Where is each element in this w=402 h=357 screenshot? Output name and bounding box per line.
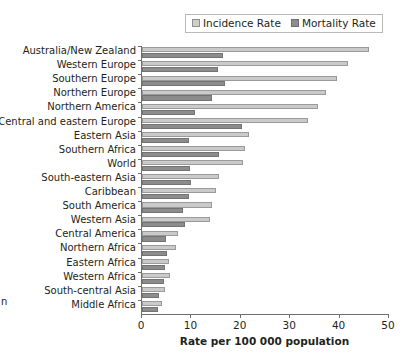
- bar-incidence: [142, 76, 337, 81]
- bar-incidence: [142, 259, 169, 264]
- y-axis-tick: [138, 201, 141, 202]
- category-label: World: [107, 157, 136, 171]
- bar-mortality: [142, 67, 218, 72]
- bar-incidence: [142, 287, 165, 292]
- bar-row: Northern America: [141, 102, 388, 116]
- bar-row: South-central Asia: [141, 286, 388, 300]
- bar-row: Central and eastern Europe: [141, 117, 388, 131]
- legend-label-mortality: Mortality Rate: [302, 17, 376, 29]
- category-label: Western Asia: [71, 213, 136, 227]
- bar-incidence: [142, 273, 170, 278]
- bar-incidence: [142, 132, 249, 137]
- bar-chart-figure: Incidence Rate Mortality Rate Australia/…: [0, 0, 402, 357]
- x-axis-tick: [289, 314, 290, 318]
- bar-mortality: [142, 152, 219, 157]
- legend-swatch-mortality-icon: [291, 19, 299, 27]
- category-label: South-central Asia: [44, 284, 136, 298]
- y-axis-tick: [138, 145, 141, 146]
- bar-incidence: [142, 146, 245, 151]
- bar-row: South-eastern Asia: [141, 173, 388, 187]
- bar-row: South America: [141, 201, 388, 215]
- category-label: Central and eastern Europe: [0, 115, 136, 129]
- bar-mortality: [142, 110, 195, 115]
- legend-label-incidence: Incidence Rate: [203, 17, 281, 29]
- bar-mortality: [142, 95, 212, 100]
- category-label: Central America: [55, 227, 136, 241]
- y-axis-tick: [138, 173, 141, 174]
- y-axis-tick: [138, 60, 141, 61]
- x-axis-tick-label: 30: [283, 319, 296, 331]
- bar-row: Western Europe: [141, 60, 388, 74]
- bar-incidence: [142, 217, 210, 222]
- bar-row: Southern Europe: [141, 74, 388, 88]
- bar-mortality: [142, 307, 158, 312]
- x-axis-tick: [190, 314, 191, 318]
- bar-incidence: [142, 104, 318, 109]
- category-label: Southern Europe: [52, 72, 136, 86]
- x-axis-tick-label: 10: [184, 319, 197, 331]
- y-axis-tick: [138, 187, 141, 188]
- bar-mortality: [142, 236, 166, 241]
- category-label: Northern Europe: [53, 86, 136, 100]
- category-label: Northern Africa: [60, 241, 136, 255]
- bar-row: Southern Africa: [141, 145, 388, 159]
- x-axis-title: Rate per 100 000 population: [141, 335, 388, 347]
- bar-incidence: [142, 245, 176, 250]
- bar-incidence: [142, 160, 243, 165]
- bar-mortality: [142, 265, 165, 270]
- bar-row: World: [141, 159, 388, 173]
- bar-incidence: [142, 231, 178, 236]
- x-axis-tick-label: 0: [138, 319, 145, 331]
- bar-row: Western Africa: [141, 272, 388, 286]
- category-label: Western Africa: [63, 270, 136, 284]
- bar-mortality: [142, 53, 223, 58]
- bar-row: Western Asia: [141, 215, 388, 229]
- bar-mortality: [142, 180, 191, 185]
- bar-row: Eastern Asia: [141, 131, 388, 145]
- x-axis-tick: [141, 314, 142, 318]
- category-label: Eastern Africa: [66, 256, 136, 270]
- bar-mortality: [142, 124, 242, 129]
- y-axis-tick: [138, 74, 141, 75]
- x-axis-tick-label: 50: [381, 319, 394, 331]
- y-axis-tick: [138, 215, 141, 216]
- category-label: Southern Africa: [59, 143, 136, 157]
- y-axis-tick: [138, 272, 141, 273]
- bar-incidence: [142, 188, 216, 193]
- chart-legend: Incidence Rate Mortality Rate: [185, 14, 383, 33]
- bar-incidence: [142, 61, 348, 66]
- x-axis-tick-label: 20: [233, 319, 246, 331]
- bar-mortality: [142, 251, 167, 256]
- legend-item-mortality: Mortality Rate: [291, 17, 376, 29]
- category-label: South-eastern Asia: [41, 171, 136, 185]
- y-axis-tick: [138, 46, 141, 47]
- x-axis-tick: [240, 314, 241, 318]
- bar-incidence: [142, 90, 326, 95]
- legend-item-incidence: Incidence Rate: [192, 17, 281, 29]
- bar-mortality: [142, 81, 225, 86]
- y-axis-tick: [138, 300, 141, 301]
- cropped-text-fragment: n: [1, 296, 7, 307]
- category-label: Australia/New Zealand: [23, 44, 136, 58]
- y-axis-tick: [138, 117, 141, 118]
- y-axis-tick: [138, 131, 141, 132]
- bar-mortality: [142, 279, 164, 284]
- category-label: Western Europe: [57, 58, 136, 72]
- category-label: Eastern Asia: [74, 129, 136, 143]
- bar-row: Central America: [141, 229, 388, 243]
- y-axis-tick: [138, 102, 141, 103]
- bar-incidence: [142, 202, 212, 207]
- x-axis-tick: [339, 314, 340, 318]
- bar-mortality: [142, 138, 189, 143]
- bar-row: Australia/New Zealand: [141, 46, 388, 60]
- y-axis-tick: [138, 229, 141, 230]
- bar-row: Northern Europe: [141, 88, 388, 102]
- bar-incidence: [142, 301, 162, 306]
- bar-row: Eastern Africa: [141, 258, 388, 272]
- plot-area: Australia/New ZealandWestern EuropeSouth…: [141, 46, 388, 314]
- legend-swatch-incidence-icon: [192, 19, 200, 27]
- y-axis-tick: [138, 258, 141, 259]
- bar-row: Middle Africa: [141, 300, 388, 314]
- y-axis-tick: [138, 88, 141, 89]
- bar-incidence: [142, 118, 308, 123]
